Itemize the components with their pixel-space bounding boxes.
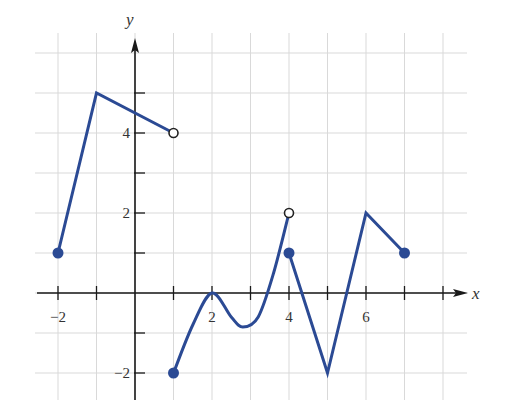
x-axis-label: x <box>471 284 480 303</box>
y-tick-label: 2 <box>123 205 131 221</box>
y-tick-label: 4 <box>123 125 131 141</box>
open-endpoint <box>285 209 294 218</box>
function-graph: −2246−224xy <box>0 0 505 419</box>
x-tick-label: 4 <box>285 309 293 325</box>
grid <box>35 33 467 400</box>
open-endpoint <box>169 129 178 138</box>
x-tick-label: −2 <box>50 309 66 325</box>
axes <box>37 38 468 400</box>
function-curves <box>58 93 405 373</box>
tick-labels: −2246−224xy <box>50 10 480 381</box>
closed-endpoint <box>168 368 179 379</box>
y-tick-label: −2 <box>114 365 130 381</box>
x-tick-label: 2 <box>208 309 216 325</box>
closed-endpoint <box>284 248 295 259</box>
x-tick-label: 6 <box>362 309 370 325</box>
closed-endpoint <box>53 248 64 259</box>
closed-endpoint <box>399 248 410 259</box>
y-axis-label: y <box>124 10 134 29</box>
